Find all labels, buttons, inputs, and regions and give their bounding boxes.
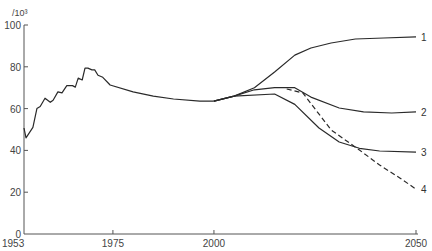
series-lines [24, 37, 416, 189]
series-3 [214, 94, 416, 152]
series-label-3: 3 [421, 147, 427, 158]
y-tick-label: 20 [10, 187, 22, 198]
x-tick-label: 1975 [102, 238, 125, 249]
x-tick-label: 2050 [405, 238, 428, 249]
series-4 [287, 89, 416, 189]
series-1 [214, 37, 416, 101]
series-label-1: 1 [421, 32, 427, 43]
y-tick-label: 80 [10, 62, 22, 73]
y-tick-label: 100 [4, 20, 21, 31]
x-axis-ticks: 1953197520002050 [2, 230, 428, 249]
series-labels: 1234 [421, 32, 427, 195]
x-tick-label: 1953 [2, 238, 25, 249]
series-historical [24, 68, 214, 138]
line-chart: /10³ 020406080100 1953197520002050 1234 [0, 0, 432, 251]
y-axis-unit-label: /10³ [12, 8, 28, 18]
series-label-2: 2 [421, 107, 427, 118]
series-label-4: 4 [421, 184, 427, 195]
y-tick-label: 60 [10, 104, 22, 115]
y-tick-label: 40 [10, 145, 22, 156]
x-tick-label: 2000 [203, 238, 226, 249]
axes [24, 25, 418, 234]
